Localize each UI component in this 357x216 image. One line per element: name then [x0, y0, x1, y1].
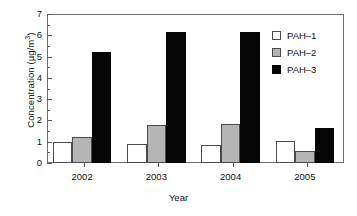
- bar: [92, 52, 112, 163]
- x-axis-title: Year: [0, 192, 357, 203]
- bar: [240, 32, 260, 163]
- y-axis-tick-label: 5: [20, 51, 42, 62]
- y-axis-tick-label: 2: [20, 114, 42, 125]
- y-axis-minor-tick-mark: [47, 46, 50, 47]
- y-axis-tick-mark: [47, 78, 52, 79]
- y-axis-tick-label: 1: [20, 136, 42, 147]
- y-axis-tick-mark: [47, 99, 52, 100]
- bar: [127, 144, 147, 163]
- bar: [72, 137, 92, 163]
- y-axis-tick-mark: [47, 35, 52, 36]
- legend-item[interactable]: PAH–3: [272, 61, 316, 78]
- bar: [166, 32, 186, 163]
- y-axis-tick-label: 6: [20, 29, 42, 40]
- bar: [53, 142, 73, 163]
- legend-item[interactable]: PAH–1: [272, 27, 316, 44]
- y-axis-tick-mark: [47, 163, 52, 164]
- bar: [201, 145, 221, 163]
- legend-swatch-icon: [272, 48, 281, 57]
- legend-swatch-icon: [272, 31, 281, 40]
- x-axis-tick-mark: [233, 163, 234, 167]
- bar: [147, 125, 167, 163]
- y-axis-tick-label: 4: [20, 72, 42, 83]
- y-axis-tick-label: 3: [20, 93, 42, 104]
- y-axis-minor-tick-mark: [47, 25, 50, 26]
- bar: [295, 151, 315, 163]
- legend-item[interactable]: PAH–2: [272, 44, 316, 61]
- figure: Concentration (µg/m3) 01234567 200220032…: [0, 0, 357, 216]
- x-axis-tick-label: 2002: [59, 171, 105, 182]
- y-axis-minor-tick-mark: [47, 89, 50, 90]
- x-axis-tick-mark: [84, 163, 85, 167]
- legend-item-label: PAH–1: [287, 30, 316, 41]
- bar: [276, 141, 296, 163]
- y-axis-tick-mark: [47, 57, 52, 58]
- legend-item-label: PAH–2: [287, 47, 316, 58]
- y-axis-tick-mark: [47, 14, 52, 15]
- x-axis-tick-label: 2003: [133, 171, 179, 182]
- y-axis-tick-label: 0: [20, 157, 42, 168]
- y-axis-minor-tick-mark: [47, 131, 50, 132]
- y-axis-tick-mark: [47, 142, 52, 143]
- x-axis-tick-mark: [158, 163, 159, 167]
- y-axis-tick-label: 7: [20, 8, 42, 19]
- legend-item-label: PAH–3: [287, 64, 316, 75]
- y-axis-tick-mark: [47, 120, 52, 121]
- y-axis-minor-tick-mark: [47, 110, 50, 111]
- bar: [315, 128, 335, 163]
- x-axis-tick-label: 2005: [282, 171, 328, 182]
- y-axis-minor-tick-mark: [47, 152, 50, 153]
- y-axis-minor-tick-mark: [47, 67, 50, 68]
- bar: [221, 124, 241, 163]
- x-axis-tick-mark: [307, 163, 308, 167]
- figure-caption-fragment: [6, 207, 346, 215]
- legend: PAH–1PAH–2PAH–3: [272, 27, 316, 78]
- legend-swatch-icon: [272, 65, 281, 74]
- x-axis-tick-label: 2004: [208, 171, 254, 182]
